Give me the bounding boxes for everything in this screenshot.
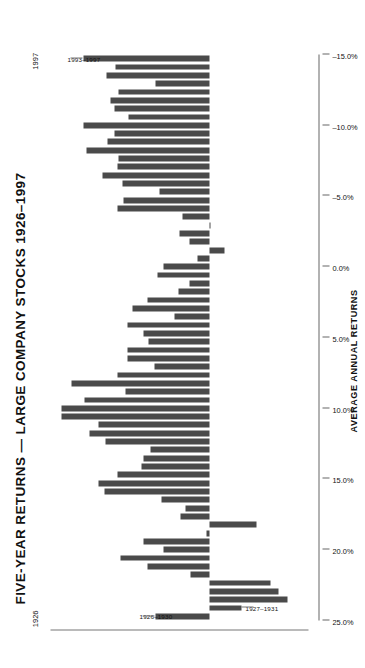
- bar: [125, 388, 209, 394]
- bar: [61, 405, 209, 411]
- bar: [110, 97, 209, 103]
- bar: [155, 80, 209, 86]
- bar: [128, 114, 209, 120]
- value-axis-tick: [322, 407, 329, 408]
- bar: [143, 538, 209, 544]
- bar: [143, 455, 209, 461]
- value-axis-tick: [322, 619, 329, 620]
- bar: [190, 571, 209, 577]
- bar: [89, 430, 209, 436]
- bar: [86, 147, 209, 153]
- value-axis-tick-label: –10.0%: [332, 122, 357, 131]
- bar: [178, 288, 209, 294]
- bar: [147, 563, 209, 569]
- bar: [209, 521, 256, 527]
- bar: [161, 496, 209, 502]
- bar: [107, 138, 209, 144]
- bar: [117, 372, 209, 378]
- bar: [71, 380, 209, 386]
- bar: [179, 230, 209, 236]
- bar: [114, 130, 209, 136]
- bar: [117, 471, 209, 477]
- bar: [180, 513, 209, 519]
- bar: [163, 546, 209, 552]
- value-axis-tick: [322, 195, 329, 196]
- bar: [106, 72, 209, 78]
- bar: [127, 355, 209, 361]
- bar: [209, 247, 224, 253]
- value-axis-title: AVERAGE ANNUAL RETURNS: [348, 289, 358, 432]
- bar: [157, 272, 209, 278]
- bar: [98, 480, 209, 486]
- annotation-leader-line: [241, 607, 253, 608]
- value-axis-tick-label: 20.0%: [332, 546, 353, 555]
- bar: [123, 197, 209, 203]
- value-axis-tick-label: 15.0%: [332, 476, 353, 485]
- bar: [102, 172, 209, 178]
- bar: [182, 213, 209, 219]
- bar: [143, 330, 209, 336]
- bar: [141, 463, 209, 469]
- value-axis-tick: [322, 53, 329, 54]
- value-axis-tick-label: 25.0%: [332, 617, 353, 626]
- value-axis-line: [318, 54, 319, 620]
- bar: [132, 305, 209, 311]
- bar: [105, 438, 209, 444]
- plot-area: [54, 54, 302, 620]
- bar: [120, 555, 209, 561]
- value-axis-tick-label: 0.0%: [332, 263, 349, 272]
- chart-title: FIVE-YEAR RETURNS — LARGE COMPANY STOCKS…: [12, 172, 27, 604]
- bar: [147, 297, 209, 303]
- bar: [197, 255, 209, 261]
- bar: [209, 605, 241, 611]
- bar: [148, 338, 209, 344]
- bar: [209, 588, 278, 594]
- value-axis-tick: [322, 548, 329, 549]
- bar: [159, 188, 209, 194]
- value-axis-tick: [322, 265, 329, 266]
- value-axis-tick: [322, 336, 329, 337]
- bar: [206, 530, 209, 536]
- bar: [209, 596, 287, 602]
- bar: [118, 89, 209, 95]
- chart-page: FIVE-YEAR RETURNS — LARGE COMPANY STOCKS…: [0, 0, 365, 668]
- bar: [185, 505, 209, 511]
- bar: [189, 280, 209, 286]
- annotation-leader-line: [142, 615, 154, 616]
- bar: [115, 64, 209, 70]
- bar: [104, 488, 209, 494]
- bar: [83, 122, 209, 128]
- bar: [114, 105, 209, 111]
- bar: [122, 180, 209, 186]
- bar: [209, 222, 210, 228]
- bar: [150, 446, 209, 452]
- bar: [61, 413, 209, 419]
- bar: [209, 580, 270, 586]
- value-axis-tick: [322, 124, 329, 125]
- bar: [189, 238, 209, 244]
- bar: [174, 313, 209, 319]
- bar: [117, 205, 209, 211]
- bar: [84, 397, 209, 403]
- bar: [127, 347, 209, 353]
- bar: [117, 163, 209, 169]
- rotated-chart-canvas: FIVE-YEAR RETURNS — LARGE COMPANY STOCKS…: [0, 0, 365, 668]
- bar: [127, 322, 209, 328]
- bar: [154, 363, 209, 369]
- bar: [163, 263, 210, 269]
- bar: [118, 155, 209, 161]
- value-axis-tick: [322, 478, 329, 479]
- bar: [98, 421, 209, 427]
- annotation-leader-line: [70, 57, 82, 58]
- value-axis-tick-label: 5.0%: [332, 334, 349, 343]
- category-axis-line: [50, 629, 308, 630]
- category-axis-endpoint-label: 1926: [30, 610, 39, 627]
- category-axis-endpoint-label: 1997: [30, 52, 39, 69]
- bar: [83, 55, 209, 61]
- value-axis-tick-label: –5.0%: [332, 193, 353, 202]
- value-axis-tick-label: –15.0%: [332, 51, 357, 60]
